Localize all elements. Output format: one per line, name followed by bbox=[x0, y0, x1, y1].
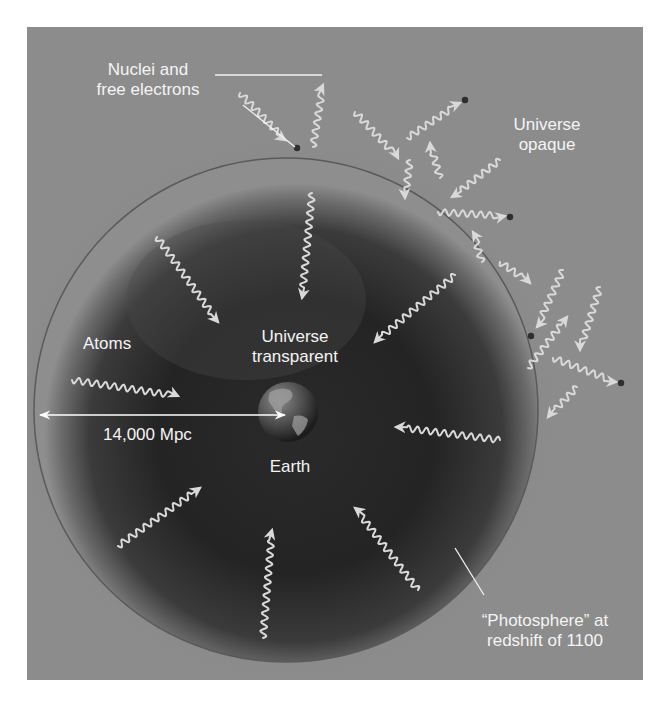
transparent-label-line1: Universe bbox=[240, 327, 350, 347]
transparent-label-line2: transparent bbox=[240, 347, 350, 367]
electron-dot bbox=[528, 333, 534, 339]
nuclei-label: Nuclei and free electrons bbox=[83, 60, 213, 100]
universe-opaque-label: Universe opaque bbox=[497, 115, 597, 155]
atoms-label: Atoms bbox=[83, 334, 131, 354]
electron-dot bbox=[462, 97, 468, 103]
opaque-label-line1: Universe bbox=[497, 115, 597, 135]
electron-dot bbox=[618, 380, 624, 386]
distance-text: 14,000 Mpc bbox=[103, 425, 192, 444]
earth-globe bbox=[258, 382, 318, 442]
electron-dot bbox=[294, 145, 300, 151]
atoms-text: Atoms bbox=[83, 334, 131, 353]
photosphere-label: “Photosphere” at redshift of 1100 bbox=[464, 611, 626, 651]
earth-text: Earth bbox=[270, 457, 311, 476]
universe-transparent-label: Universe transparent bbox=[240, 327, 350, 367]
nuclei-label-line1: Nuclei and bbox=[83, 60, 213, 80]
electron-dot bbox=[507, 214, 513, 220]
nuclei-label-line2: free electrons bbox=[83, 80, 213, 100]
cmb-photosphere-diagram: Nuclei and free electrons Universe opaqu… bbox=[27, 27, 643, 680]
photosphere-label-line2: redshift of 1100 bbox=[464, 631, 626, 651]
photosphere-label-line1: “Photosphere” at bbox=[464, 611, 626, 631]
earth-label: Earth bbox=[255, 457, 325, 477]
distance-label: 14,000 Mpc bbox=[103, 425, 192, 445]
opaque-label-line2: opaque bbox=[497, 135, 597, 155]
